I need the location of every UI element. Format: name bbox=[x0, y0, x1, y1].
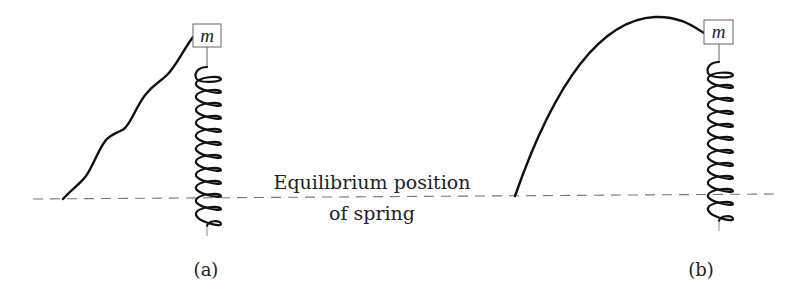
trajectory-a-path bbox=[63, 37, 193, 199]
panel-caption-b: (b) bbox=[688, 259, 714, 280]
mass-label-a: m bbox=[200, 25, 214, 46]
mass-label-b: m bbox=[712, 21, 726, 42]
spring-mass-diagram: m (a) Equilibrium position of spring m (… bbox=[0, 0, 798, 298]
spring-b bbox=[708, 62, 733, 221]
equilibrium-dashed-line bbox=[33, 194, 778, 199]
panel-b: m (b) bbox=[515, 17, 733, 280]
panel-a: m (a) bbox=[63, 24, 221, 280]
trajectory-b-path bbox=[515, 17, 704, 196]
panel-caption-a: (a) bbox=[194, 259, 219, 280]
equilibrium-label-line2: of spring bbox=[329, 202, 415, 224]
spring-a bbox=[196, 67, 221, 226]
equilibrium-label-line1: Equilibrium position bbox=[274, 171, 471, 193]
